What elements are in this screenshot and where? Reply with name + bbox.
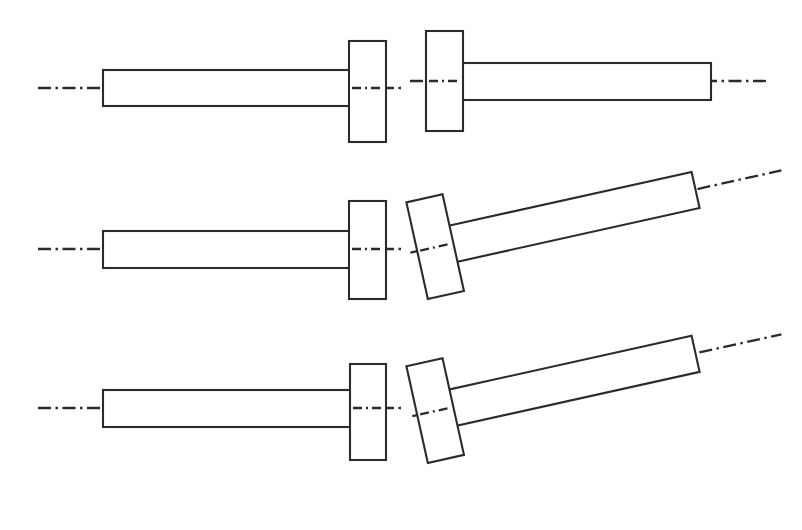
left-shaft-body [103,390,351,427]
left-flange-body [349,41,386,142]
diagram-root: Shaft coupling alignment states Three si… [0,0,802,530]
shaft-misalignment-diagram: Shaft coupling alignment states Three si… [0,0,802,530]
left-flange-body [350,364,386,460]
left-shaft-body [103,231,351,268]
left-shaft-body [103,70,351,106]
right-shaft-body [461,63,711,100]
